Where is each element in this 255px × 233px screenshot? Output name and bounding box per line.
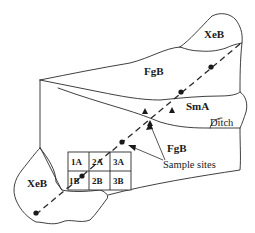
label-xeb-bottom: XeB xyxy=(27,177,48,189)
sample-point xyxy=(178,89,183,94)
triangle-markers xyxy=(142,107,175,126)
arrow-line xyxy=(150,124,165,160)
grid-cell-1a: 1A xyxy=(71,157,83,167)
label-sma: SmA xyxy=(186,100,209,112)
sample-point xyxy=(208,64,213,69)
label-ditch: Ditch xyxy=(210,117,234,128)
label-sample-sites: Sample sites xyxy=(163,159,216,170)
grid-cell-2a: 2A xyxy=(92,157,104,167)
fgb-sma-boundary xyxy=(40,80,240,100)
sample-point xyxy=(33,210,38,215)
sample-point xyxy=(119,139,124,144)
grid-cell-3b: 3B xyxy=(113,176,124,186)
triangle-marker xyxy=(142,108,148,114)
grid-cell-2b: 2B xyxy=(92,176,103,186)
label-fgb-upper: FgB xyxy=(144,65,164,77)
triangle-marker xyxy=(169,107,175,113)
soil-map-diagram: 1A 2A 3A 1B 2B 3B XeB FgB SmA FgB XeB Di… xyxy=(0,0,255,233)
arrow-head-icon xyxy=(128,145,136,151)
grid-cell-3a: 3A xyxy=(113,157,125,167)
label-fgb-lower: FgB xyxy=(167,142,187,154)
grid-cell-1b: 1B xyxy=(69,176,80,186)
transect-points xyxy=(33,64,213,215)
label-xeb-top: XeB xyxy=(204,28,225,40)
